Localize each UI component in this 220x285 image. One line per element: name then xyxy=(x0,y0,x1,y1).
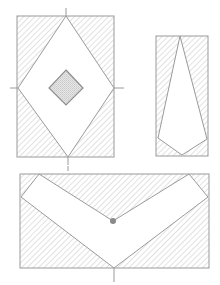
panel-1-rectangle-diamond xyxy=(10,8,124,165)
panel-3-vertex-dot xyxy=(110,218,116,224)
panel-2-narrow-rectangle-kite xyxy=(156,36,208,156)
figure-canvas xyxy=(0,0,220,285)
panel-3-wide-rectangle-chevron xyxy=(20,166,209,282)
